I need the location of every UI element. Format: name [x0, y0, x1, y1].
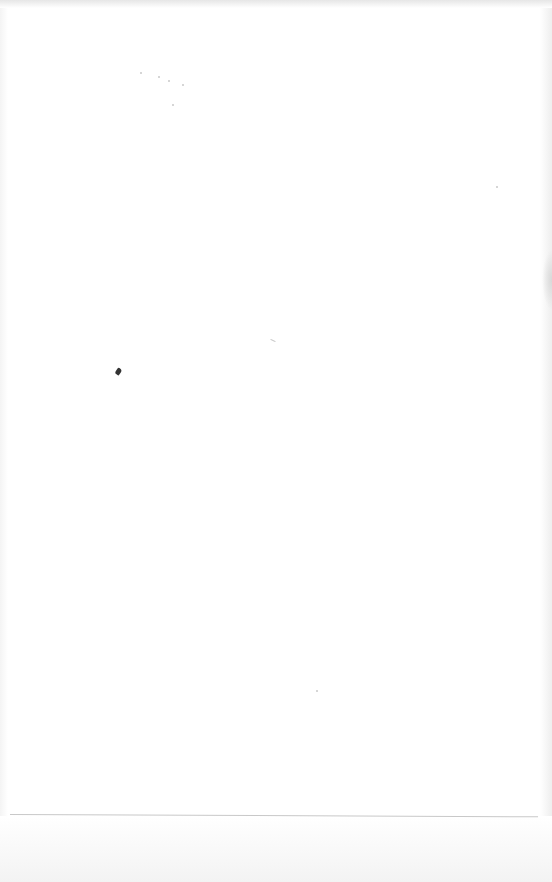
speck	[140, 72, 142, 74]
speck	[496, 186, 498, 188]
speck	[316, 690, 318, 692]
speck	[158, 76, 160, 78]
bottom-margin	[0, 816, 552, 882]
speck	[172, 104, 174, 106]
speck	[182, 84, 184, 86]
page-top-edge	[0, 0, 552, 8]
speck	[168, 80, 170, 82]
speck	[270, 339, 276, 342]
blank-page	[0, 0, 552, 882]
page-edge-shadow	[542, 250, 552, 310]
ink-mark	[114, 367, 122, 376]
